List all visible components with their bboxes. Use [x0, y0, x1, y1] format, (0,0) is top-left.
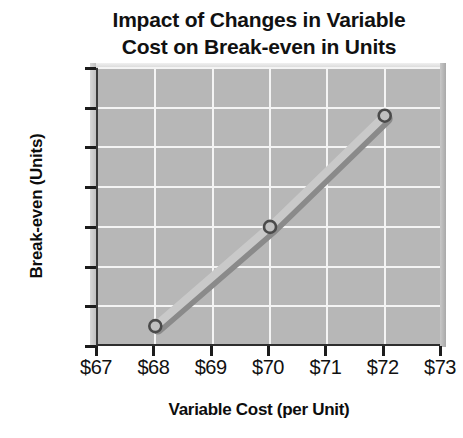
chart-title-line-1: Impact of Changes in Variable [60, 6, 458, 33]
x-axis-tick [439, 346, 442, 356]
y-axis-tick [85, 226, 96, 229]
x-axis-tick-label: $73 [405, 356, 463, 379]
x-axis-tick [324, 346, 327, 356]
chart-container: Impact of Changes in Variable Cost on Br… [0, 0, 463, 438]
x-axis-tick [210, 346, 213, 356]
data-point-marker [379, 110, 391, 122]
chart-title-line-2: Cost on Break-even in Units [60, 33, 458, 60]
y-axis-tick [85, 107, 96, 110]
plot-area-wrapper [96, 68, 440, 346]
y-axis-tick [85, 305, 96, 308]
x-axis-tick [152, 346, 155, 356]
chart-title: Impact of Changes in Variable Cost on Br… [60, 6, 458, 60]
x-axis-tick [267, 346, 270, 356]
x-axis-title: Variable Cost (per Unit) [60, 400, 458, 420]
y-axis-tick [85, 67, 96, 70]
y-axis-title: Break-even (Units) [27, 81, 47, 331]
y-axis-tick [85, 266, 96, 269]
plot-area [96, 68, 440, 346]
series-line-breakeven [98, 68, 442, 346]
y-axis-tick [85, 186, 96, 189]
data-point-marker [264, 221, 276, 233]
x-axis-tick [382, 346, 385, 356]
data-point-marker [149, 320, 161, 332]
y-axis-tick [85, 146, 96, 149]
x-axis-tick [95, 346, 98, 356]
